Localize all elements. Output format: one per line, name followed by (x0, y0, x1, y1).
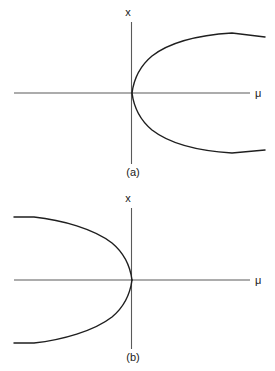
panel-b-y-axis-label: x (125, 192, 131, 204)
panel-a-x-axis-label: μ (255, 87, 261, 99)
panel-a-caption: (a) (126, 166, 139, 178)
panel-b-x-axis-label: μ (255, 274, 261, 286)
panel-a: x μ (a) (0, 0, 275, 186)
panel-b: x μ (b) (0, 186, 275, 371)
panel-a-upper-branch (132, 33, 265, 93)
panel-a-lower-branch (132, 93, 265, 153)
panel-a-y-axis-label: x (125, 6, 131, 18)
panel-b-upper-branch (14, 217, 132, 280)
bifurcation-figure: x μ (a) x μ (b) (0, 0, 275, 371)
panel-b-lower-branch (14, 280, 132, 343)
panel-b-caption: (b) (126, 351, 139, 363)
